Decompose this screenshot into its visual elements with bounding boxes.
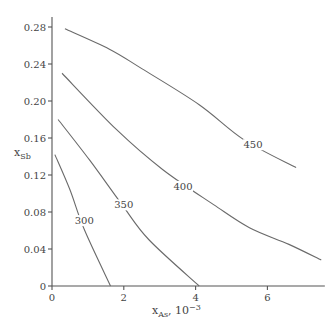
y-tick-label: 0.12: [24, 170, 46, 181]
y-tick-label: 0.08: [24, 207, 46, 218]
x-tick-label: 2: [121, 292, 127, 303]
y-tick-label: 0: [40, 281, 46, 292]
isotherm-label-350: 350: [114, 199, 133, 210]
y-tick-label: 0.24: [24, 59, 46, 70]
y-tick-label: 0.28: [24, 22, 46, 33]
x-axis-ticks: 0246: [49, 286, 271, 303]
isotherm-label-400: 400: [173, 181, 192, 192]
isotherm-400: [62, 73, 321, 260]
x-axis-label: xAs, 10−3: [152, 303, 201, 319]
contour-chart: 00.040.080.120.160.200.240.28 0246 30035…: [0, 0, 336, 331]
isotherm-label-300: 300: [75, 215, 94, 226]
isotherm-curves: 300350400450: [55, 29, 321, 286]
x-tick-label: 6: [264, 292, 270, 303]
x-tick-label: 0: [49, 292, 55, 303]
y-tick-label: 0.16: [24, 133, 46, 144]
isotherm-label-450: 450: [243, 139, 262, 150]
x-tick-label: 4: [192, 292, 198, 303]
y-tick-label: 0.20: [24, 96, 46, 107]
y-axis-label: xSb: [14, 146, 31, 161]
y-tick-label: 0.04: [24, 244, 46, 255]
